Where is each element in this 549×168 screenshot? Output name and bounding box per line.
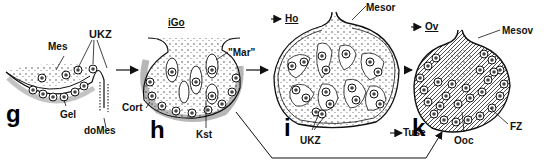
label-ho: Ho [285,14,298,24]
gonad-development-diagram: g Mes UKZ Gel doMes h iGo "Mar" Cort Kst… [0,0,549,168]
label-ukz-g: UKZ [89,29,112,40]
panel-letter-g: g [6,102,21,126]
label-cort: Cort [122,103,143,113]
label-mesor: Mesor [366,3,395,13]
panel-i-drawing [274,6,399,130]
label-ov: Ov [425,22,438,32]
label-kst: Kst [196,130,212,140]
label-ukz-i: UKZ [300,136,321,146]
label-mes: Mes [48,42,67,52]
panel-letter-k: k [412,116,425,140]
label-mar: "Mar" [228,48,255,58]
panel-letter-i: i [284,116,291,140]
label-igo: iGo [168,18,185,28]
label-domes: doMes [84,126,116,136]
panel-k-drawing [414,30,510,132]
panel-g-drawing [6,40,108,128]
panel-letter-h: h [150,118,165,142]
label-ooc: Ooc [454,136,473,146]
label-mesov: Mesov [502,26,533,36]
panel-h-drawing [144,38,241,128]
label-gel: Gel [60,110,76,120]
label-fz: FZ [510,122,522,132]
